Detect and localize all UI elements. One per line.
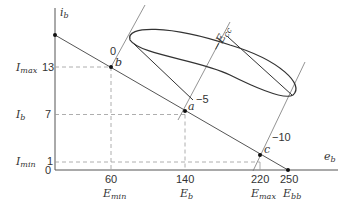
y-name-imin: Imin — [15, 155, 36, 169]
y-name-imax: Imax — [15, 61, 38, 75]
y-axis-label: ib — [60, 6, 69, 20]
point-top — [53, 33, 57, 37]
loop-connector-left — [134, 44, 193, 100]
point-a — [183, 109, 187, 113]
point-b — [109, 65, 113, 69]
x-name-emin: Emin — [102, 187, 126, 201]
point-ebb — [286, 168, 290, 172]
grid-tick-minus10: −10 — [272, 131, 291, 143]
x-name-eb: Eb — [179, 187, 193, 201]
x-name-emax: Emax — [250, 187, 276, 201]
x-tick-60: 60 — [105, 173, 117, 185]
grid-tick-minus5: −5 — [196, 93, 209, 105]
point-c-label: c — [264, 143, 270, 156]
y-tick-7: 7 — [45, 108, 51, 120]
guide-lines — [55, 67, 260, 170]
point-a-label: a — [188, 100, 195, 113]
x-name-ebb: Ebb — [282, 187, 301, 201]
y-tick-1: 1 — [47, 155, 53, 167]
point-b-label: b — [115, 56, 122, 69]
grid-tick-0: 0 — [110, 45, 116, 57]
point-c — [258, 153, 262, 157]
load-line — [55, 35, 288, 170]
loop-connector-right — [228, 37, 292, 95]
y-tick-13: 13 — [42, 61, 54, 73]
x-tick-220: 220 — [251, 173, 269, 185]
x-axis-label: eb — [324, 150, 336, 164]
load-line-diagram: ib eb 0 13 Imax 7 Ib 1 Imin 60 Emin 140 … — [0, 0, 352, 205]
x-tick-140: 140 — [176, 173, 194, 185]
y-name-ib: Ib — [15, 108, 25, 122]
x-tick-250: 250 — [280, 173, 298, 185]
